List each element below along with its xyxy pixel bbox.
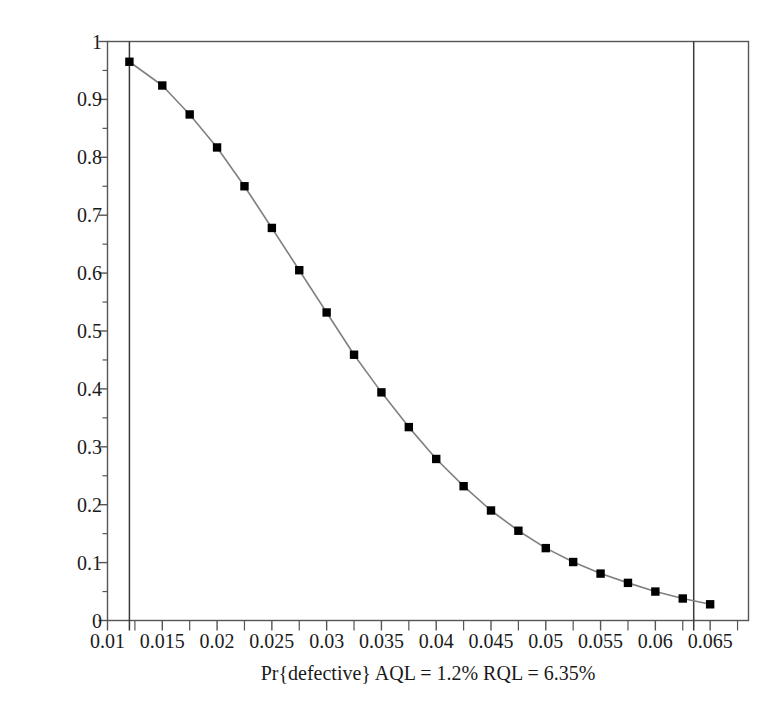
- series-line-oc-curve: [129, 62, 710, 605]
- data-point-marker[interactable]: [405, 423, 413, 431]
- data-point-marker[interactable]: [268, 224, 276, 232]
- y-axis-tick-label: 0.8: [56, 147, 102, 167]
- y-axis-tick-label: 0.7: [56, 205, 102, 225]
- plot-frame: [108, 42, 749, 621]
- data-point-marker[interactable]: [487, 506, 495, 514]
- oc-curve-figure: Pr{Reject Ho|Pa} 00.10.20.30.40.50.60.70…: [0, 0, 783, 716]
- y-axis-tick-label: 0.5: [56, 321, 102, 341]
- data-point-marker[interactable]: [459, 482, 467, 490]
- data-point-marker[interactable]: [158, 81, 166, 89]
- y-axis-tick-label: 0.1: [56, 553, 102, 573]
- y-axis-tick-label: 0.9: [56, 89, 102, 109]
- plot-canvas: [0, 0, 783, 716]
- data-point-marker[interactable]: [596, 569, 604, 577]
- data-point-marker[interactable]: [350, 351, 358, 359]
- x-axis-tick-label: 0.065: [670, 628, 750, 654]
- data-point-marker[interactable]: [322, 308, 330, 316]
- data-point-marker[interactable]: [432, 455, 440, 463]
- data-point-marker[interactable]: [624, 579, 632, 587]
- data-point-marker[interactable]: [569, 558, 577, 566]
- data-point-marker[interactable]: [377, 388, 385, 396]
- data-point-marker[interactable]: [679, 594, 687, 602]
- y-axis-tick-label: 0.2: [56, 495, 102, 515]
- data-point-marker[interactable]: [651, 587, 659, 595]
- data-point-marker[interactable]: [240, 182, 248, 190]
- data-point-marker[interactable]: [125, 58, 133, 66]
- data-point-marker[interactable]: [213, 143, 221, 151]
- data-point-marker[interactable]: [706, 600, 714, 608]
- data-point-marker[interactable]: [295, 266, 303, 274]
- y-axis-tick-label: 1: [56, 32, 102, 52]
- series-markers-oc-curve: [125, 58, 714, 609]
- data-point-marker[interactable]: [542, 544, 550, 552]
- x-axis-title: Pr{defective} AQL = 1.2% RQL = 6.35%: [107, 662, 749, 685]
- y-axis-tick-label: 0.4: [56, 379, 102, 399]
- y-axis-tick-label: 0.3: [56, 437, 102, 457]
- data-point-marker[interactable]: [185, 110, 193, 118]
- data-point-marker[interactable]: [514, 527, 522, 535]
- y-axis-tick-label: 0.6: [56, 263, 102, 283]
